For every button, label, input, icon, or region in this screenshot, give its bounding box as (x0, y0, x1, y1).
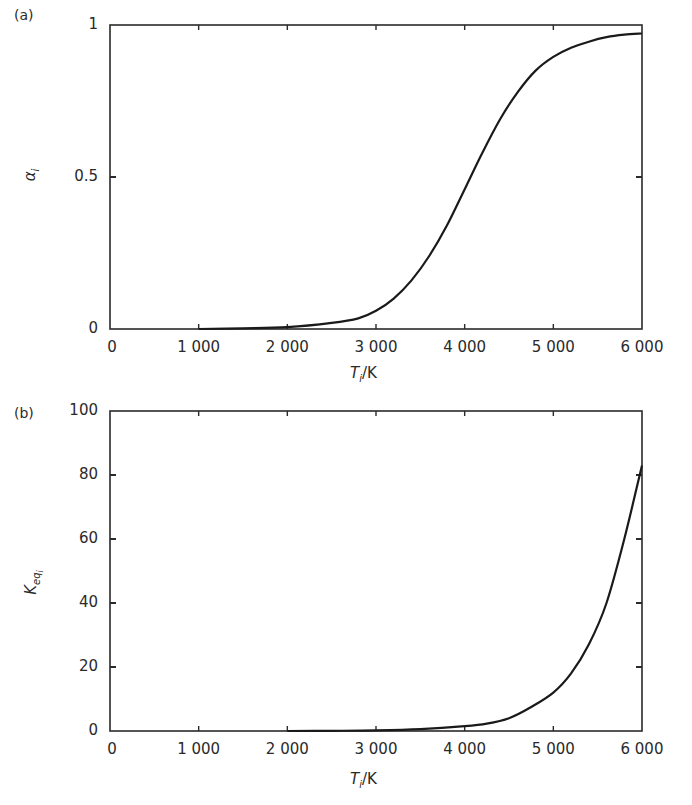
panel-label-b: (b) (14, 406, 34, 420)
x-tick-label: 5 000 (523, 340, 583, 355)
x-tick-label: 0 (82, 340, 142, 355)
x-tick-label: 4 000 (435, 742, 495, 757)
figure: (a) 00.51 01 0002 0003 0004 0005 0006 00… (0, 0, 692, 805)
y-tick-label: 1 (48, 17, 98, 32)
panel-b-x-axis-label: Ti/K (350, 772, 377, 790)
y-tick-label: 100 (48, 403, 98, 418)
x-tick-label: 1 000 (169, 340, 229, 355)
x-tick-label: 3 000 (346, 742, 406, 757)
x-tick-label: 6 000 (612, 340, 672, 355)
x-tick-label: 1 000 (169, 742, 229, 757)
y-tick-label: 20 (48, 659, 98, 674)
x-tick-label: 2 000 (257, 742, 317, 757)
panel-b-plot (110, 411, 642, 731)
y-tick-label: 60 (48, 531, 98, 546)
panel-a-y-axis-label: αi (23, 169, 41, 182)
panel-label-a: (a) (14, 8, 34, 22)
y-tick-label: 0 (48, 321, 98, 336)
x-tick-label: 2 000 (257, 340, 317, 355)
panel-a-plot (110, 25, 642, 329)
plot-canvas (0, 0, 692, 805)
y-tick-label: 80 (48, 467, 98, 482)
panel-b-y-axis-label: Keqi (24, 570, 45, 595)
panel-a-x-axis-label: Ti/K (350, 366, 377, 384)
x-tick-label: 4 000 (435, 340, 495, 355)
plot-frame-a (110, 25, 642, 329)
y-tick-label: 0 (48, 723, 98, 738)
y-tick-label: 0.5 (48, 169, 98, 184)
x-tick-label: 6 000 (612, 742, 672, 757)
x-tick-label: 5 000 (523, 742, 583, 757)
data-curve-b (287, 465, 642, 731)
x-tick-label: 3 000 (346, 340, 406, 355)
x-tick-label: 0 (82, 742, 142, 757)
data-curve-a (199, 34, 642, 330)
y-tick-label: 40 (48, 595, 98, 610)
